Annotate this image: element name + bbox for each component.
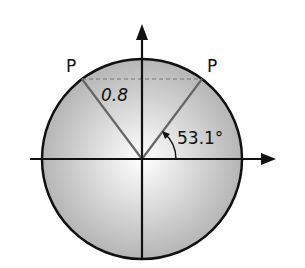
x-axis-arrow-icon — [261, 153, 276, 165]
point-right-label: P — [207, 56, 217, 76]
unit-circle-diagram: P P 0.8 53.1° — [0, 0, 305, 268]
angle-label: 53.1° — [177, 128, 223, 148]
y-axis-arrow-icon — [136, 24, 148, 40]
height-label: 0.8 — [101, 85, 128, 105]
point-left-label: P — [66, 56, 76, 76]
